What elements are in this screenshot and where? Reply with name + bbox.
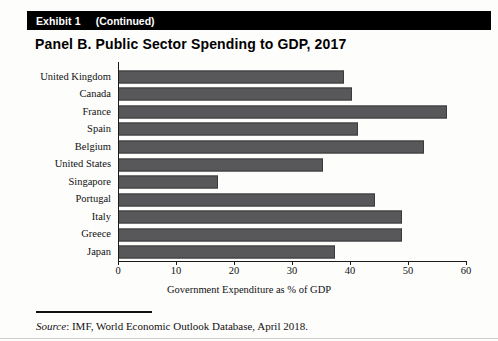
chart-row: Belgium — [0, 138, 498, 156]
bar-track — [118, 226, 498, 244]
footer-divider — [36, 311, 152, 313]
category-label: United States — [0, 159, 118, 170]
chart-row: Spain — [0, 121, 498, 139]
x-axis-tick-label: 40 — [345, 266, 356, 277]
bar-track — [118, 68, 498, 86]
bar-chart: United KingdomCanadaFranceSpainBelgiumUn… — [0, 62, 498, 272]
bar — [118, 158, 323, 171]
chart-row: France — [0, 103, 498, 121]
source-word: Source — [36, 320, 66, 332]
category-label: Canada — [0, 89, 118, 100]
category-label: Italy — [0, 212, 118, 223]
category-label: Belgium — [0, 142, 118, 153]
x-axis-tick-label: 60 — [461, 266, 472, 277]
exhibit-label: Exhibit 1 — [36, 15, 81, 27]
category-label: Spain — [0, 124, 118, 135]
category-label: France — [0, 107, 118, 118]
x-axis-tick-label: 0 — [115, 266, 120, 277]
chart-row: Italy — [0, 208, 498, 226]
x-axis-title: Government Expenditure as % of GDP — [0, 284, 498, 295]
bar — [118, 193, 375, 206]
chart-row: Canada — [0, 86, 498, 104]
category-label: Greece — [0, 229, 118, 240]
bar-track — [118, 173, 498, 191]
category-label: Portugal — [0, 194, 118, 205]
x-axis-tick-label: 30 — [287, 266, 298, 277]
y-axis-line — [118, 62, 119, 261]
category-label: United Kingdom — [0, 72, 118, 83]
page-bottom-rule — [0, 338, 498, 339]
chart-row: United States — [0, 156, 498, 174]
bar — [118, 70, 344, 83]
chart-rows: United KingdomCanadaFranceSpainBelgiumUn… — [0, 68, 498, 261]
source-note: Source: IMF, World Economic Outlook Data… — [36, 320, 308, 332]
bar — [118, 176, 218, 189]
bar-track — [118, 191, 498, 209]
bar-track — [118, 121, 498, 139]
bar-track — [118, 103, 498, 121]
bar-track — [118, 208, 498, 226]
bar-track — [118, 86, 498, 104]
exhibit-header-bar: Exhibit 1 (Continued) — [27, 11, 491, 30]
bar-track — [118, 243, 498, 261]
bar — [118, 246, 335, 259]
x-axis-tick-label: 20 — [229, 266, 240, 277]
exhibit-continued-label: (Continued) — [96, 15, 155, 27]
bar — [118, 140, 424, 153]
chart-row: Greece — [0, 226, 498, 244]
bar — [118, 88, 352, 101]
category-label: Japan — [0, 247, 118, 258]
bar — [118, 211, 402, 224]
bar-track — [118, 138, 498, 156]
x-axis-tick-label: 10 — [171, 266, 182, 277]
source-text: : IMF, World Economic Outlook Database, … — [66, 320, 308, 332]
chart-row: Portugal — [0, 191, 498, 209]
x-axis-tick-label: 50 — [403, 266, 414, 277]
category-label: Singapore — [0, 177, 118, 188]
exhibit-page: Exhibit 1 (Continued) Panel B. Public Se… — [0, 0, 498, 341]
bar-track — [118, 156, 498, 174]
chart-row: United Kingdom — [0, 68, 498, 86]
bar — [118, 123, 358, 136]
chart-row: Singapore — [0, 173, 498, 191]
bar — [118, 105, 447, 118]
bar — [118, 228, 402, 241]
chart-row: Japan — [0, 243, 498, 261]
page-title: Panel B. Public Sector Spending to GDP, … — [35, 36, 346, 52]
